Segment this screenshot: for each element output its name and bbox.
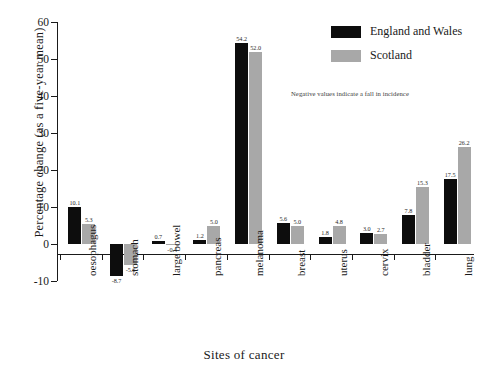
bar-value-label: 54.2: [236, 35, 247, 42]
bar: [333, 226, 346, 244]
bar-value-label: 1.2: [196, 232, 204, 239]
x-category-label: bladder: [420, 243, 432, 276]
legend-item: England and Wales: [331, 24, 462, 39]
legend-label: England and Wales: [370, 24, 462, 39]
y-tick: [51, 22, 57, 23]
x-category-label: uterus: [337, 249, 349, 276]
bar-value-label: 0.7: [154, 233, 162, 240]
bar-value-label: 7.8: [405, 207, 413, 214]
bar-value-label: 2.7: [377, 226, 385, 233]
legend-label: Scotland: [370, 48, 412, 63]
bar: [360, 233, 373, 244]
bar-value-label: 17.5: [445, 171, 456, 178]
x-tick: [60, 254, 61, 260]
bar: [458, 147, 471, 244]
y-tick-label: 60: [38, 16, 50, 28]
legend: England and WalesScotland: [331, 24, 462, 72]
y-tick: [51, 207, 57, 208]
bar-value-label: 5.3: [85, 216, 93, 223]
chart-figure: Percentage change (as a five-year mean) …: [0, 0, 488, 383]
y-tick: [51, 133, 57, 134]
bar-value-label: 3.0: [363, 225, 371, 232]
bar-group: 5.65.0: [277, 22, 304, 281]
legend-swatch: [331, 50, 361, 62]
x-category-label: cervix: [378, 249, 390, 276]
bar: [402, 215, 415, 244]
x-category-label: pancreas: [211, 238, 223, 276]
y-axis-line: [57, 22, 58, 281]
y-tick-label: -10: [34, 275, 49, 287]
bar: [319, 237, 332, 244]
bar: [416, 187, 429, 244]
legend-swatch: [331, 26, 361, 38]
bar: [193, 240, 206, 244]
bar: [374, 234, 387, 244]
bar-value-label: -8.7: [112, 277, 122, 284]
x-axis-title: Sites of cancer: [0, 347, 488, 363]
x-tick: [102, 254, 103, 260]
x-category-label: large bowel: [170, 225, 182, 276]
y-tick-label: 40: [38, 90, 50, 102]
y-tick-label: 10: [38, 201, 50, 213]
bar: [152, 241, 165, 244]
bar-value-label: 5.0: [293, 218, 301, 225]
legend-item: Scotland: [331, 48, 462, 63]
y-tick: [51, 244, 57, 245]
bar-value-label: 5.0: [210, 218, 218, 225]
x-tick: [352, 254, 353, 260]
x-tick: [435, 254, 436, 260]
x-tick: [227, 254, 228, 260]
x-category-label: breast: [295, 250, 307, 276]
y-tick: [51, 59, 57, 60]
y-tick-label: 50: [38, 53, 50, 65]
chart-annotation: Negative values indicate a fall in incid…: [291, 90, 409, 97]
x-category-label: stomach: [128, 239, 140, 276]
bar-value-label: 10.1: [69, 199, 80, 206]
x-tick: [185, 254, 186, 260]
y-tick-label: 20: [38, 164, 50, 176]
y-tick-label: 30: [38, 127, 50, 139]
bar-value-label: 4.8: [335, 218, 343, 225]
x-category-label: lung: [462, 256, 474, 276]
y-tick: [51, 281, 57, 282]
bar-value-label: 5.6: [279, 215, 287, 222]
y-tick: [51, 96, 57, 97]
bar: [235, 43, 248, 244]
x-category-label: melanoma: [253, 230, 265, 276]
bar: [444, 179, 457, 244]
bar-value-label: 1.8: [321, 229, 329, 236]
bar: [249, 52, 262, 244]
bar: [291, 226, 304, 245]
x-tick: [269, 254, 270, 260]
x-tick: [394, 254, 395, 260]
x-category-label: oesophagus: [86, 225, 98, 276]
bar-value-label: 26.2: [459, 139, 470, 146]
y-tick-label: 0: [43, 238, 49, 250]
y-tick: [51, 170, 57, 171]
bar: [277, 223, 290, 244]
bar: [68, 207, 81, 244]
x-tick: [143, 254, 144, 260]
x-tick: [310, 254, 311, 260]
bar-value-label: 15.3: [417, 179, 428, 186]
bar: [110, 244, 123, 276]
bar-value-label: 52.0: [250, 44, 261, 51]
